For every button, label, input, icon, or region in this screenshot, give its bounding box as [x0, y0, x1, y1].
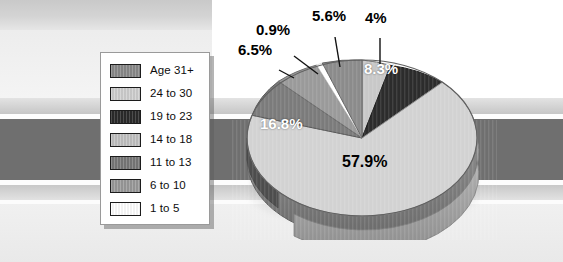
pie-top-texture	[247, 60, 477, 216]
pie-label-6-5: 6.5%	[238, 42, 272, 57]
pie-label-5-6: 5.6%	[312, 8, 346, 23]
pie-chart: 6.5% 0.9% 5.6% 4% 8.3% 16.8% 57.9%	[232, 30, 497, 240]
legend-swatch-11-to-13	[110, 156, 141, 170]
legend-item-age-31-plus[interactable]: Age 31+	[101, 59, 209, 82]
pie-label-8-3: 8.3%	[364, 61, 398, 76]
chart-canvas: 6.5% 0.9% 5.6% 4% 8.3% 16.8% 57.9% Age 3…	[0, 0, 563, 262]
legend-swatch-6-to-10	[110, 179, 141, 193]
legend-swatch-age-31-plus	[110, 64, 141, 78]
legend-item-1-to-5[interactable]: 1 to 5	[101, 197, 209, 220]
legend-item-6-to-10[interactable]: 6 to 10	[101, 174, 209, 197]
legend-item-14-to-18[interactable]: 14 to 18	[101, 128, 209, 151]
pie-label-4: 4%	[365, 10, 387, 25]
chart-legend: Age 31+ 24 to 30 19 to 23 14 to 18 11 to…	[100, 52, 210, 225]
legend-label-1-to-5: 1 to 5	[150, 203, 179, 215]
legend-swatch-1-to-5	[110, 202, 141, 216]
legend-label-age-31-plus: Age 31+	[150, 65, 194, 77]
legend-label-6-to-10: 6 to 10	[150, 180, 186, 192]
legend-swatch-24-to-30	[110, 87, 141, 101]
legend-item-24-to-30[interactable]: 24 to 30	[101, 82, 209, 105]
legend-swatch-19-to-23	[110, 110, 141, 124]
legend-label-11-to-13: 11 to 13	[150, 157, 192, 169]
legend-item-19-to-23[interactable]: 19 to 23	[101, 105, 209, 128]
pie-label-0-9: 0.9%	[256, 22, 290, 37]
legend-label-14-to-18: 14 to 18	[150, 134, 192, 146]
background-band-top-left	[0, 0, 212, 30]
pie-label-16-8: 16.8%	[260, 116, 303, 131]
legend-label-19-to-23: 19 to 23	[150, 111, 192, 123]
legend-swatch-14-to-18	[110, 133, 141, 147]
pie-label-57-9: 57.9%	[342, 154, 387, 170]
legend-item-11-to-13[interactable]: 11 to 13	[101, 151, 209, 174]
legend-label-24-to-30: 24 to 30	[150, 88, 192, 100]
